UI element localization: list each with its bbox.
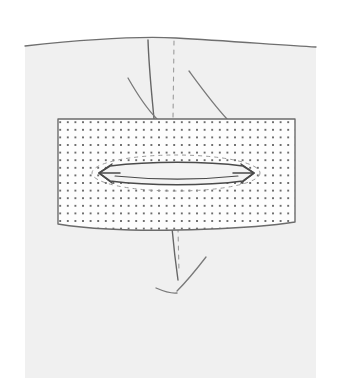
surgical-illustration-svg xyxy=(0,0,337,378)
hernia-defect-slit xyxy=(99,162,254,185)
illustration-canvas xyxy=(0,0,337,378)
